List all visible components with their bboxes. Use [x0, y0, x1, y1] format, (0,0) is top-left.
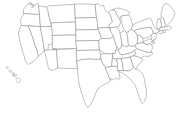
state-washington[interactable] — [24, 3, 40, 15]
state-oregon[interactable] — [21, 14, 41, 27]
state-colorado[interactable] — [53, 35, 77, 49]
contiguous-states-group — [19, 3, 176, 108]
state-wyoming[interactable] — [52, 22, 77, 36]
state-north-dakota[interactable] — [75, 4, 97, 18]
map-canvas — [0, 0, 181, 120]
island-molokai[interactable] — [12, 73, 15, 74]
island-maui[interactable] — [15, 75, 18, 77]
state-south-dakota[interactable] — [76, 18, 99, 31]
state-florida[interactable] — [118, 68, 147, 104]
island-oahu[interactable] — [10, 70, 12, 72]
us-outline-map — [0, 0, 181, 120]
state-nebraska[interactable] — [76, 30, 102, 42]
island-kauai[interactable] — [6, 67, 9, 69]
island-hawaii[interactable] — [16, 78, 20, 83]
state-montana[interactable] — [47, 4, 76, 23]
hawaii-inset-group — [6, 67, 21, 83]
state-arizona[interactable] — [45, 50, 59, 71]
state-kansas[interactable] — [76, 41, 100, 51]
